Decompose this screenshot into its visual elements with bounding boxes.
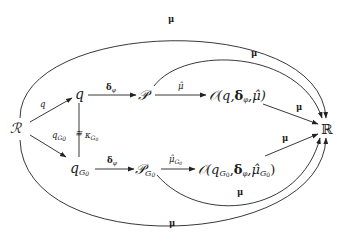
commutative-diagram: μ μ μ μ q qG0 ≅ κG0 ℛ q qG0 δφ δφ 𝒫 𝒫G0 … — [0, 0, 341, 244]
label-iso: ≅ — [75, 128, 83, 138]
label-arc-bottom-outer: μ — [169, 218, 175, 228]
label-PG0-to-OG0: μ̂G0 — [169, 154, 182, 166]
node-O: 𝒪(q,δφ,μ̂) — [209, 88, 266, 104]
node-R-target: ℝ — [321, 121, 333, 137]
node-PG0: 𝒫G0 — [135, 161, 155, 178]
label-O-to-R: μ — [296, 102, 302, 112]
node-OG0: 𝒪(qG0,δφ,μ̂G0) — [198, 162, 275, 178]
label-R-to-q: q — [40, 99, 46, 109]
label-arc-bottom-inner: μ — [237, 187, 243, 197]
label-P-to-O: μ̂ — [178, 81, 184, 91]
label-arc-top-outer: μ — [168, 14, 174, 24]
label-qG0-to-PG0: δφ — [107, 155, 118, 167]
label-q-to-P: δφ — [106, 82, 117, 94]
label-arc-top-inner: μ — [251, 48, 257, 58]
arrow-OG0-to-R — [265, 134, 318, 156]
node-q: q — [75, 86, 84, 102]
arrow-R-to-q — [30, 98, 72, 122]
arc-top-outer — [20, 41, 326, 118]
label-iso-kappa: κG0 — [84, 130, 98, 142]
node-P: 𝒫 — [138, 87, 152, 103]
arc-bottom-outer — [20, 138, 326, 226]
label-OG0-to-R: μ — [282, 133, 288, 143]
node-qG0: qG0 — [70, 160, 89, 177]
label-R-to-qG0: qG0 — [52, 130, 66, 142]
arrow-O-to-R — [263, 104, 318, 124]
node-R-source: ℛ — [10, 120, 22, 136]
